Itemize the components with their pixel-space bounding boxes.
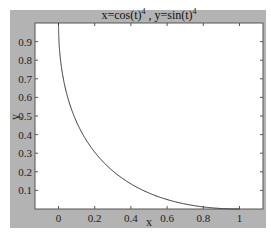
- y-tick-label: 0.8: [18, 54, 32, 66]
- x-tick-label: 1: [237, 212, 243, 224]
- y-tick-label: 0.2: [18, 166, 32, 178]
- y-tick-label: 0.1: [18, 184, 32, 196]
- plot-area: [35, 23, 263, 209]
- y-tick-label: 0.3: [18, 147, 32, 159]
- chart: 0.10.20.30.40.50.60.70.80.9 00.20.40.60.…: [0, 0, 271, 238]
- x-tick-label: 0: [56, 212, 62, 224]
- x-tick-label: 0.4: [124, 212, 138, 224]
- y-tick-label: 0.9: [18, 36, 32, 48]
- x-axis-label: x: [146, 215, 152, 229]
- x-tick-label: 0.6: [160, 212, 174, 224]
- chart-title: x=cos(t)4 , y=sin(t)4: [101, 7, 196, 22]
- x-tick-label: 0.2: [88, 212, 102, 224]
- y-tick-label: 0.7: [18, 73, 32, 85]
- y-tick-label: 0.6: [18, 91, 32, 103]
- y-tick-label: 0.4: [18, 129, 32, 141]
- x-tick-label: 0.8: [196, 212, 210, 224]
- y-axis-label: y: [8, 114, 22, 120]
